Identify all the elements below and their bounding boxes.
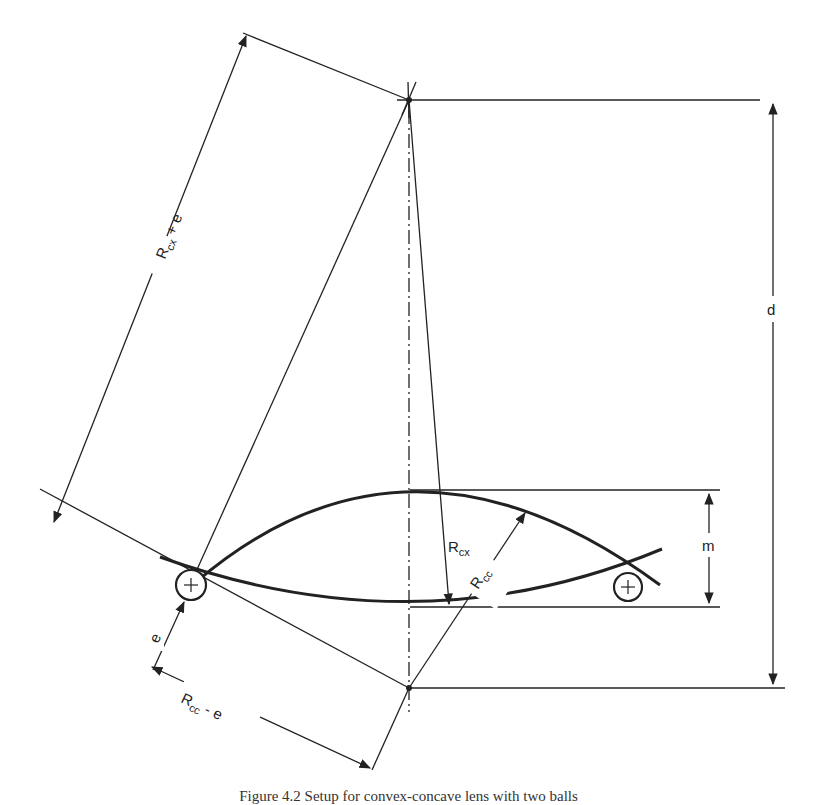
top-center-point [406, 97, 412, 103]
convex-surface [196, 492, 660, 585]
bottom-center-point [406, 685, 412, 691]
top-left-extension [243, 33, 409, 100]
d-label: d [767, 301, 775, 318]
rcx-arrow [409, 100, 449, 604]
figure-caption: Figure 4.2 Setup for convex-concave lens… [0, 788, 817, 805]
rcx-plus-e-radius-line [190, 100, 409, 585]
bottom-left-extension [372, 688, 409, 770]
tangent-line [40, 489, 409, 688]
m-label: m [702, 537, 715, 554]
rcx-plus-e-dimension [54, 36, 246, 522]
